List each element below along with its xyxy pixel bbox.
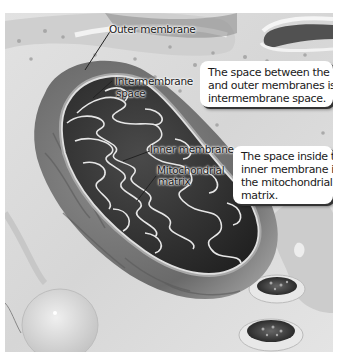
callout-matrix-line: inner membrane is [241,163,329,176]
callout-matrix-line: The space inside the [241,150,329,163]
callout-intermembrane-space: The space between the inner and outer me… [200,61,333,107]
label-mitochondrial-matrix-line2: matrix [158,176,190,187]
callout-intermembrane-line: intermembrane space. [208,92,327,105]
label-intermembrane-space-line2: space [116,88,145,99]
callout-matrix-line: matrix. [241,189,329,202]
callout-mitochondrial-matrix: The space inside the inner membrane is t… [233,146,333,204]
mitochondrion-figure: Outer membrane Intermembrane space Inner… [5,13,333,352]
label-inner-membrane: Inner membrane [150,144,234,155]
callout-matrix-line: the mitochondrial [241,176,329,189]
callout-intermembrane-line: The space between the inner [208,66,327,79]
callout-intermembrane-line: and outer membranes is the [208,79,327,92]
label-intermembrane-space-line1: Intermembrane [115,76,193,87]
label-outer-membrane: Outer membrane [109,24,195,35]
